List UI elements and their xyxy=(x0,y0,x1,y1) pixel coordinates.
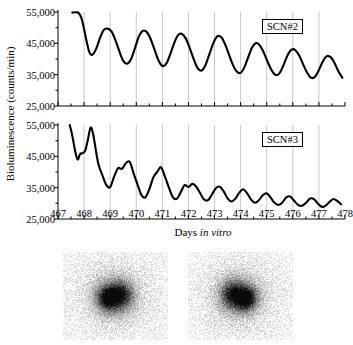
x-tick-label: 470 xyxy=(128,208,144,219)
x-tick-label: 471 xyxy=(155,208,171,219)
y-tick-label: 55,000 xyxy=(26,7,55,18)
x-tick-label: 476 xyxy=(285,208,301,219)
x-tick-label: 472 xyxy=(181,208,197,219)
bioluminescence-image-right xyxy=(188,252,293,340)
y-axis-title: Bioluminescence (counts/min) xyxy=(4,19,16,209)
y-tick-label: 55,000 xyxy=(26,120,55,131)
x-tick-label: 468 xyxy=(76,208,92,219)
y-tick-label: 45,000 xyxy=(26,38,55,49)
y-tick-label: 45,000 xyxy=(26,151,55,162)
panel-tag-scn2: SCN#2 xyxy=(262,19,303,34)
x-axis-title: Days in vitro xyxy=(58,226,348,238)
x-tick-label: 478 xyxy=(337,208,353,219)
x-tick-label: 467 xyxy=(50,208,66,219)
x-tick-label: 475 xyxy=(259,208,275,219)
x-tick-label: 469 xyxy=(102,208,118,219)
x-tick-label: 477 xyxy=(311,208,327,219)
x-tick-label: 474 xyxy=(233,208,249,219)
x-axis-title-italic: in vitro xyxy=(200,226,232,238)
bioluminescence-image-left xyxy=(63,252,168,340)
y-tick-label: 35,000 xyxy=(26,69,55,80)
x-tick-label: 473 xyxy=(207,208,223,219)
y-tick-label: 35,000 xyxy=(26,182,55,193)
panel-tag-scn3: SCN#3 xyxy=(262,132,303,147)
y-tick-label: 25,000 xyxy=(26,101,55,112)
figure-container: Bioluminescence (counts/min) 25,00035,00… xyxy=(0,0,353,345)
x-axis-title-prefix: Days xyxy=(174,226,199,238)
